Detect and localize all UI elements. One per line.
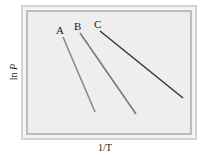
x-axis-label: 1/T — [98, 142, 112, 153]
label-a: A — [56, 24, 64, 36]
label-b: B — [74, 20, 81, 32]
y-axis-label: ln P — [8, 64, 19, 80]
label-c: C — [94, 18, 101, 30]
frame-inner — [27, 11, 191, 134]
diagram: A B C 1/T ln P — [0, 0, 206, 155]
